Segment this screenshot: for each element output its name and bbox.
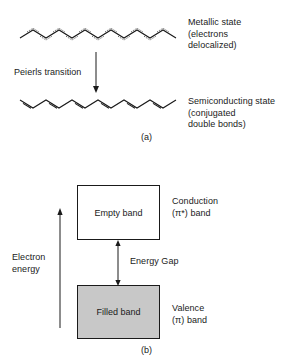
valence-band-side-label: Valence (π) band [172,303,207,326]
peierls-transition-arrow [86,52,106,94]
figure-peierls-band-diagram: Metallic state (electrons delocalized) S… [0,0,307,363]
chain-backbone [20,30,176,38]
chain-backbone [20,100,176,108]
semiconducting-state-label: Semiconducting state (conjugated double … [188,96,275,131]
peierls-transition-label: Peierls transition [14,67,81,79]
conduction-band-side-label: Conduction (π*) band [172,196,218,219]
conduction-band-box: Empty band [77,185,160,240]
panel-letter-a: (a) [141,132,152,143]
energy-gap-label: Energy Gap [130,256,179,268]
electron-energy-axis-arrow [52,208,68,328]
panel-letter-b: (b) [141,345,152,356]
semiconducting-polymer-chain [18,94,181,118]
conduction-band-box-label: Empty band [94,208,142,218]
electron-energy-label: Electron energy [12,252,45,275]
valence-band-box: Filled band [77,285,160,339]
metallic-state-label: Metallic state (electrons delocalized) [188,17,241,52]
metallic-polymer-chain [18,24,181,48]
energy-gap-arrow [110,240,126,286]
valence-band-box-label: Filled band [96,307,140,317]
